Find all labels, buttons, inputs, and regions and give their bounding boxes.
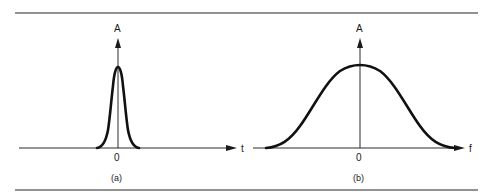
panel-b: f A 0 (b) xyxy=(253,23,472,183)
a-axis-right-label: A xyxy=(356,23,363,34)
caption-a: (a) xyxy=(111,173,122,183)
t-axis-label: t xyxy=(241,143,244,154)
origin-label-a: 0 xyxy=(114,152,120,163)
caption-b: (b) xyxy=(353,173,364,183)
panel-a: t A 0 (a) xyxy=(19,23,244,183)
t-axis-arrow-icon xyxy=(226,145,237,151)
origin-label-b: 0 xyxy=(356,152,362,163)
f-axis-label: f xyxy=(469,143,472,154)
a-axis-right-arrow-icon xyxy=(357,38,363,48)
fourier-pair-figure: t A 0 (a) f A 0 (b) xyxy=(0,0,492,192)
a-axis-left-label: A xyxy=(114,23,121,34)
a-axis-left-arrow-icon xyxy=(115,38,121,48)
